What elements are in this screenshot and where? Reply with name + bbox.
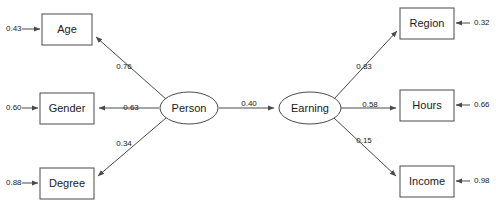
residual-value-degree: 0.88 xyxy=(6,178,22,187)
node-label-earning: Earning xyxy=(291,102,329,114)
node-label-gender: Gender xyxy=(49,102,86,114)
coefficient-earning-income: 0.15 xyxy=(356,136,372,145)
path-person-degree xyxy=(98,118,166,176)
node-label-person: Person xyxy=(172,102,207,114)
path-earning-income xyxy=(334,118,396,176)
node-label-income: Income xyxy=(409,175,445,187)
residual-value-gender: 0.60 xyxy=(6,103,22,112)
coefficient-earning-hours: 0.58 xyxy=(362,100,378,109)
sem-path-diagram: Age Gender Degree Region Hours Income Pe… xyxy=(0,0,496,212)
node-label-region: Region xyxy=(410,17,445,29)
node-label-age: Age xyxy=(57,23,77,35)
coefficient-person-gender: 0.63 xyxy=(123,103,139,112)
residual-value-region: 0.32 xyxy=(474,18,490,27)
node-label-degree: Degree xyxy=(49,177,85,189)
coefficient-earning-region: 0.83 xyxy=(356,62,372,71)
coefficient-person-age: 0.76 xyxy=(116,62,132,71)
residual-value-income: 0.98 xyxy=(474,176,490,185)
node-label-hours: Hours xyxy=(412,99,442,111)
coefficient-person-degree: 0.34 xyxy=(116,139,132,148)
coefficient-person-earning: 0.40 xyxy=(241,99,257,108)
residual-value-age: 0.43 xyxy=(6,24,22,33)
diagram-canvas: Age Gender Degree Region Hours Income Pe… xyxy=(0,0,496,212)
residual-value-hours: 0.66 xyxy=(474,100,490,109)
